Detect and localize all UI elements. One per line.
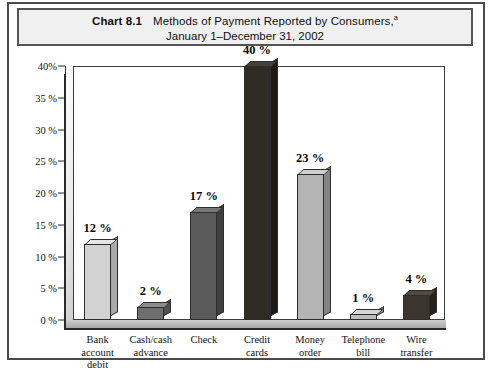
chart-title-text: Methods of Payment Reported by Consumers… [153,15,394,27]
x-axis-category-line: Money [295,334,325,347]
x-axis-category-label: Check [190,334,217,347]
y-axis-tick-label: 10 % [35,251,57,262]
bar-value-label: 23 % [296,151,324,166]
y-axis: 0 %5 %10 %15 %20 %25 %30 %35 %40% [17,50,65,356]
y-axis-tick-mark [58,193,65,194]
bar-value-label: 2 % [140,284,162,299]
bar-series: 12 %2 %17 %40 %23 %1 %4 % [73,66,445,320]
x-axis-category-line: transfer [400,347,432,360]
x-axis-category-line: Telephone [341,334,385,347]
bar-side-face [217,204,224,316]
y-axis-tick-mark [58,129,65,130]
bar-front-face [190,212,217,320]
bar[interactable] [244,66,271,320]
x-axis-category-line: Check [190,334,217,347]
x-axis: BankaccountdebitCash/cashadvanceCheckCre… [73,334,453,370]
bar-front-face [350,314,377,320]
y-axis-tick-mark [58,256,65,257]
x-axis-category-line: order [295,347,325,360]
y-axis-tick-mark [58,161,65,162]
y-axis-tick-mark [58,97,65,98]
chart-title-daterange: January 1–December 31, 2002 [166,29,324,44]
x-axis-category-line: debit [81,359,114,370]
bar-front-face [137,307,164,320]
y-axis-tick-label: 0 % [40,315,57,326]
bar[interactable] [403,295,430,320]
x-axis-category-line: bill [341,347,385,360]
y-axis-tick-label: 20 % [35,188,57,199]
bar-front-face [403,295,430,320]
y-axis-tick-label: 5 % [40,283,57,294]
bar[interactable] [137,307,164,320]
x-axis-category-line: Bank [81,334,114,347]
y-axis-tick-label: 30 % [35,124,57,135]
y-axis-tick-label: 15 % [35,219,57,230]
y-axis-tick-label: 25 % [35,156,57,167]
y-axis-tick-label: 40% [38,61,57,72]
chart-plot-region: 0 %5 %10 %15 %20 %25 %30 %35 %40% 12 %2 … [17,50,473,356]
x-axis-category-label: Wiretransfer [400,334,432,359]
x-axis-category-label: Telephonebill [341,334,385,359]
y-axis-tick-mark [58,288,65,289]
x-axis-category-line: cards [244,347,270,360]
bar-value-label: 1 % [352,291,374,306]
bar-side-face [324,166,331,316]
x-axis-category-line: account [81,347,114,360]
x-axis-category-label: Cash/cashadvance [129,334,172,359]
bar[interactable] [84,244,111,320]
x-axis-category-line: advance [129,347,172,360]
x-axis-category-label: Bankaccountdebit [81,334,114,370]
x-axis-line [64,328,446,330]
bar-front-face [244,66,271,320]
bar-side-face [111,236,118,316]
bar-side-face [271,58,278,316]
y-axis-tick-label: 35 % [35,92,57,103]
bar-value-label: 12 % [84,221,112,236]
footnote-marker: a [394,13,398,22]
bar-value-label: 17 % [190,189,218,204]
bar[interactable] [350,314,377,320]
chart-title-band: Chart 8.1Methods of Payment Reported by … [17,8,473,46]
x-axis-category-line: Cash/cash [129,334,172,347]
chart-number-label: Chart 8.1 [92,15,142,27]
bar[interactable] [190,212,217,320]
bar-front-face [297,174,324,320]
bar[interactable] [297,174,324,320]
y-axis-tick-mark [58,320,65,321]
x-axis-category-label: Moneyorder [295,334,325,359]
x-axis-category-line: Wire [400,334,432,347]
x-axis-category-line: Credit [244,334,270,347]
chart-title-primary: Chart 8.1Methods of Payment Reported by … [92,10,398,29]
y-axis-tick-mark [58,224,65,225]
bar-value-label: 40 % [243,43,271,58]
figure-frame: Chart 8.1Methods of Payment Reported by … [7,2,485,360]
bar-front-face [84,244,111,320]
bar-value-label: 4 % [405,272,427,287]
x-axis-category-label: Creditcards [244,334,270,359]
y-axis-tick-mark [58,66,65,67]
